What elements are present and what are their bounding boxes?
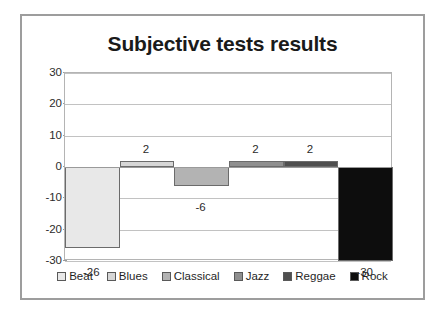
legend-label: Jazz — [246, 270, 270, 282]
bar-beat[interactable] — [65, 167, 120, 248]
legend-item-classical[interactable]: Classical — [162, 270, 220, 282]
legend-swatch-icon — [234, 272, 243, 281]
bars-group — [65, 73, 391, 259]
gridline--30 — [65, 261, 391, 262]
y-axis-tick-label: 20 — [28, 97, 62, 109]
data-label-blues: 2 — [143, 143, 149, 155]
y-axis: 3020100-10-20-30 — [22, 72, 62, 260]
y-axis-tick-label: -10 — [28, 191, 62, 203]
gridline-0 — [65, 167, 391, 168]
legend-item-jazz[interactable]: Jazz — [234, 270, 270, 282]
chart-container: Subjective tests results 3020100-10-20-3… — [20, 14, 425, 300]
legend-swatch-icon — [107, 272, 116, 281]
data-label-rock: -30 — [356, 266, 373, 278]
legend-label: Classical — [174, 270, 220, 282]
legend-label: Blues — [119, 270, 148, 282]
data-label-reggae: 2 — [307, 143, 313, 155]
data-label-jazz: 2 — [252, 143, 258, 155]
y-axis-tick-label: 10 — [28, 129, 62, 141]
legend-item-blues[interactable]: Blues — [107, 270, 148, 282]
data-label-beat: -26 — [83, 266, 100, 278]
y-axis-tick-label: -30 — [28, 254, 62, 266]
y-axis-tick-label: -20 — [28, 223, 62, 235]
legend-item-reggae[interactable]: Reggae — [283, 270, 335, 282]
legend-label: Reggae — [295, 270, 335, 282]
plot-area — [64, 72, 392, 260]
legend-swatch-icon — [162, 272, 171, 281]
legend-swatch-icon — [283, 272, 292, 281]
bar-classical[interactable] — [174, 167, 229, 186]
chart-title: Subjective tests results — [22, 32, 423, 56]
y-axis-tick-label: 30 — [28, 66, 62, 78]
legend-swatch-icon — [57, 272, 66, 281]
bar-rock[interactable] — [338, 167, 393, 261]
y-axis-tick-label: 0 — [28, 160, 62, 172]
data-label-classical: -6 — [196, 201, 206, 213]
